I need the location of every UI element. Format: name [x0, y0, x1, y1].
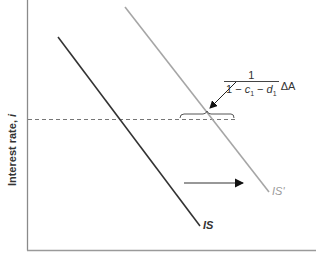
y-axis-label: Interest rate, i	[6, 114, 18, 186]
multiplier-annotation: 1 1 − c1 − d1 ΔA	[224, 69, 295, 100]
is-curve	[58, 37, 200, 226]
multiplier-fraction: 1 1 − c1 − d1	[224, 69, 279, 100]
minus-sign: −	[254, 83, 267, 95]
is-prime-label: IS'	[272, 185, 285, 197]
delta-a: ΔA	[281, 80, 296, 92]
fraction-numerator: 1	[246, 69, 256, 81]
denominator-prefix: 1 −	[226, 83, 245, 95]
y-axis-symbol: i	[6, 114, 18, 117]
is-label: IS	[203, 219, 213, 231]
fraction-denominator: 1 − c1 − d1	[224, 81, 279, 100]
is-shift-diagram	[0, 0, 316, 266]
shift-brace	[180, 111, 234, 118]
y-axis-label-text: Interest rate,	[6, 117, 18, 186]
d-subscript: 1	[273, 90, 277, 97]
